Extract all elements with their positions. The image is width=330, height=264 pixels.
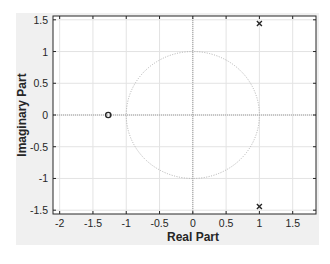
x-tick-label: -1.5	[84, 217, 102, 229]
x-tick-label: 0	[190, 217, 196, 229]
x-tick-labels: -2-1.5-1-0.500.511.5	[55, 217, 300, 229]
x-tick-label: 1.5	[285, 217, 300, 229]
y-tick-label: -0.5	[30, 141, 48, 153]
x-tick-label: -0.5	[150, 217, 168, 229]
pole-zero-chart: -2-1.5-1-0.500.511.5 1.510.50-0.5-1-1.5 …	[0, 0, 330, 264]
y-tick-label: 1	[42, 46, 48, 58]
y-tick-label: 1.5	[33, 14, 48, 26]
y-axis-label: Imaginary Part	[15, 73, 29, 156]
y-tick-label: -1.5	[30, 204, 48, 216]
y-tick-label: 0.5	[33, 77, 48, 89]
y-tick-label: 0	[42, 109, 48, 121]
y-tick-labels: 1.510.50-0.5-1-1.5	[30, 14, 48, 216]
x-tick-label: -1	[122, 217, 131, 229]
y-tick-label: -1	[39, 172, 48, 184]
x-axis-label: Real Part	[167, 230, 219, 244]
x-tick-label: -2	[55, 217, 64, 229]
x-tick-label: 0.5	[219, 217, 234, 229]
x-tick-label: 1	[256, 217, 262, 229]
